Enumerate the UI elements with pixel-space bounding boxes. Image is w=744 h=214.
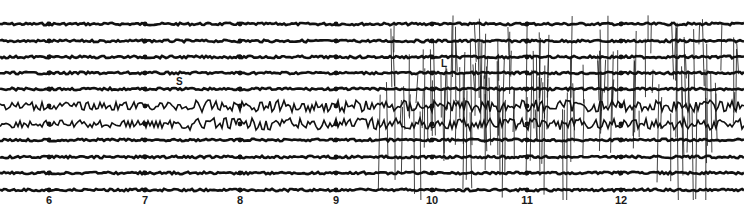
spike bbox=[447, 69, 448, 110]
minute-mark bbox=[47, 171, 52, 176]
minute-mark bbox=[525, 71, 530, 76]
spike bbox=[452, 15, 453, 77]
minute-mark bbox=[47, 55, 52, 60]
trace-line bbox=[0, 88, 744, 90]
minute-mark bbox=[143, 87, 148, 92]
minute-mark bbox=[619, 55, 624, 60]
minute-mark bbox=[47, 39, 52, 44]
spike bbox=[391, 29, 392, 87]
spike bbox=[424, 68, 425, 147]
spike bbox=[737, 43, 739, 74]
trace-line bbox=[0, 118, 744, 130]
minute-mark bbox=[525, 87, 530, 92]
minute-mark bbox=[334, 171, 339, 176]
minute-mark bbox=[619, 39, 624, 44]
minute-mark bbox=[334, 55, 339, 60]
spike bbox=[479, 19, 481, 105]
minute-mark bbox=[430, 22, 435, 27]
minute-label: 6 bbox=[46, 194, 52, 206]
minute-mark bbox=[525, 155, 530, 160]
minute-mark bbox=[238, 87, 243, 92]
minute-mark bbox=[619, 71, 624, 76]
phase-label-s: S bbox=[176, 76, 183, 87]
minute-mark bbox=[619, 104, 624, 109]
minute-mark bbox=[334, 39, 339, 44]
minute-mark bbox=[238, 122, 243, 127]
minute-mark bbox=[143, 104, 148, 109]
minute-mark bbox=[143, 39, 148, 44]
trace-line bbox=[0, 23, 744, 25]
spike bbox=[443, 105, 444, 161]
spike bbox=[420, 112, 421, 200]
trace-line bbox=[0, 40, 744, 42]
spike bbox=[466, 90, 467, 179]
minute-mark bbox=[619, 122, 624, 127]
minute-mark bbox=[143, 55, 148, 60]
minute-mark bbox=[334, 22, 339, 27]
spike bbox=[661, 97, 662, 129]
minute-mark bbox=[47, 22, 52, 27]
minute-label: 9 bbox=[333, 194, 339, 206]
minute-mark bbox=[619, 87, 624, 92]
trace-line bbox=[0, 56, 744, 58]
minute-label: 7 bbox=[142, 194, 148, 206]
minute-mark bbox=[47, 155, 52, 160]
trace-line bbox=[0, 156, 744, 158]
minute-mark bbox=[47, 122, 52, 127]
minute-mark bbox=[238, 39, 243, 44]
minute-mark bbox=[47, 71, 52, 76]
minute-label: 12 bbox=[615, 194, 627, 206]
minute-label: 8 bbox=[237, 194, 243, 206]
minute-mark bbox=[47, 138, 52, 143]
minute-mark bbox=[238, 155, 243, 160]
minute-mark bbox=[619, 155, 624, 160]
trace-line bbox=[0, 172, 744, 174]
minute-mark bbox=[619, 188, 624, 193]
minute-mark bbox=[619, 138, 624, 143]
minute-mark bbox=[334, 155, 339, 160]
minute-mark bbox=[334, 138, 339, 143]
trace-line bbox=[0, 72, 744, 74]
spike bbox=[583, 65, 584, 104]
minute-mark bbox=[47, 87, 52, 92]
spike bbox=[409, 94, 410, 118]
minute-mark bbox=[238, 55, 243, 60]
minute-mark bbox=[334, 87, 339, 92]
spike bbox=[736, 49, 737, 111]
minute-mark bbox=[334, 104, 339, 109]
minute-mark bbox=[619, 171, 624, 176]
spike bbox=[542, 82, 543, 164]
minute-mark bbox=[238, 138, 243, 143]
spike bbox=[414, 108, 415, 194]
trace-line bbox=[0, 189, 744, 191]
spike bbox=[505, 100, 506, 175]
spike bbox=[400, 100, 401, 124]
spike bbox=[672, 22, 674, 80]
spike bbox=[404, 86, 405, 129]
spike bbox=[677, 104, 678, 200]
minute-label: 10 bbox=[426, 194, 438, 206]
minute-mark bbox=[334, 188, 339, 193]
seismogram-traces bbox=[0, 0, 744, 214]
spike bbox=[657, 84, 659, 182]
spike bbox=[473, 64, 474, 88]
trace-line bbox=[0, 100, 744, 112]
spike bbox=[721, 24, 722, 70]
spike bbox=[715, 94, 716, 125]
minute-mark bbox=[430, 138, 435, 143]
minute-mark bbox=[143, 138, 148, 143]
minute-mark bbox=[334, 71, 339, 76]
phase-label-l: L bbox=[441, 58, 447, 69]
spike bbox=[378, 95, 380, 191]
spike bbox=[611, 88, 612, 153]
minute-mark bbox=[143, 122, 148, 127]
minute-mark bbox=[619, 22, 624, 27]
spike bbox=[455, 100, 456, 145]
minute-mark bbox=[525, 171, 530, 176]
minute-label: 11 bbox=[521, 194, 533, 206]
spike bbox=[547, 79, 548, 130]
minute-mark bbox=[430, 188, 435, 193]
minute-mark bbox=[143, 188, 148, 193]
minute-mark bbox=[143, 71, 148, 76]
minute-mark bbox=[143, 171, 148, 176]
